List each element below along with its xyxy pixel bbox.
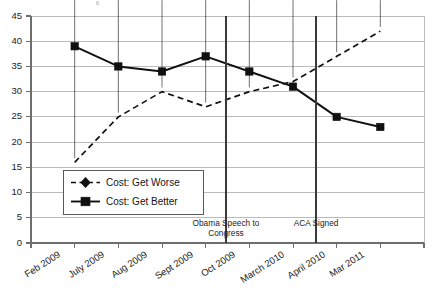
ytick-label-20: 20 [11,136,22,147]
xtick-label-sept-2009: Sept 2009 [153,248,195,281]
scan-artifact [96,1,99,5]
x-axis-ticks [31,243,424,248]
xtick-label-mar-2011: Mar 2011 [327,248,366,279]
ytick-label-40: 40 [11,35,22,46]
ytick-label-25: 25 [11,110,22,121]
legend-label-cost-get-better: Cost: Get Better [106,196,178,207]
data-point-better [289,83,296,90]
data-point-better [377,123,384,130]
ytick-label-15: 15 [11,161,22,172]
cost-perception-line-chart: 45 40 35 30 25 20 15 10 5 0 Feb 2009 [0,0,438,300]
line-cost-get-worse [75,31,381,162]
ytick-label-35: 35 [11,60,22,71]
event-annotations: Obama Speech to Congress ACA Signed [193,16,339,243]
obama-speech-label-line1: Obama Speech to [193,218,260,228]
legend-label-cost-get-worse: Cost: Get Worse [106,177,180,188]
xtick-label-feb-2009: Feb 2009 [22,248,62,279]
xtick-label-oct-2009: Oct 2009 [199,248,237,278]
y-axis-ticks: 45 40 35 30 25 20 15 10 5 0 [11,10,31,248]
ytick-label-0: 0 [17,237,22,248]
legend-square-marker-icon [81,197,90,206]
data-point-better [333,113,340,120]
aca-signed-label-line1: ACA Signed [294,218,339,228]
xtick-label-aug-2009: Aug 2009 [109,248,149,279]
markers-cost-get-worse [75,0,381,158]
chart-legend: Cost: Get Worse Cost: Get Better [63,170,203,214]
legend-item-cost-get-better[interactable]: Cost: Get Better [71,196,178,207]
ytick-label-5: 5 [17,211,22,222]
xtick-label-april-2010: April 2010 [285,248,327,281]
chart-container: 45 40 35 30 25 20 15 10 5 0 Feb 2009 [0,0,438,300]
ytick-label-45: 45 [11,10,22,21]
xtick-label-march-2010: March 2010 [238,248,286,285]
ytick-label-30: 30 [11,85,22,96]
xtick-label-july-2009: July 2009 [66,248,106,279]
ytick-label-10: 10 [11,186,22,197]
x-axis-labels: Feb 2009 July 2009 Aug 2009 Sept 2009 Oc… [22,248,366,285]
series-cost-get-worse [75,0,381,162]
obama-speech-label-line2: Congress [208,228,244,238]
